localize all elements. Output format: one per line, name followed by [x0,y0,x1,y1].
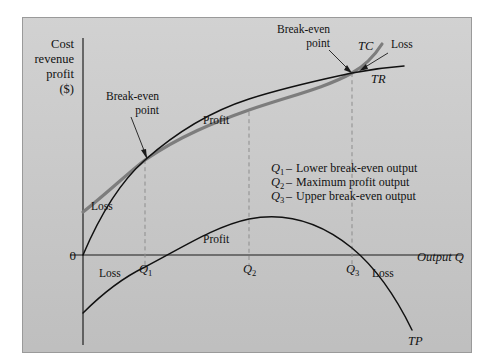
loss-label-left: Loss [91,200,113,212]
profit-label-upper: Profit [203,114,230,126]
svg-text:Q: Q [271,161,280,175]
tc-curve-label: TC [358,39,374,53]
q2-tick-label: Q 2 [243,262,256,278]
loss-label-right: Loss [391,38,413,50]
svg-text:–: – [285,175,293,189]
svg-text:3: 3 [355,268,359,278]
y-axis-label-line-4: ($) [59,82,74,96]
svg-text:2: 2 [280,181,284,191]
q3-tick-label: Q 3 [346,262,359,278]
svg-text:1: 1 [148,268,152,278]
breakeven-right-leader [329,50,352,73]
svg-text:3: 3 [280,195,284,205]
figure-stage: Cost revenue profit ($) 0 Output Q Q 1 Q… [0,0,491,364]
y-axis-label-line-3: profit [46,67,74,81]
x-axis-label: Output Q [417,250,464,264]
svg-text:point: point [135,104,159,117]
svg-text:–: – [285,161,293,175]
breakeven-left-leader [131,117,147,159]
origin-label: 0 [70,248,77,263]
profit-label-lower: Profit [203,233,230,245]
svg-text:Q: Q [243,262,252,276]
svg-text:Break-even: Break-even [277,23,330,35]
loss-label-axis-left: Loss [99,267,121,279]
economics-breakeven-chart: Cost revenue profit ($) 0 Output Q Q 1 Q… [0,0,491,364]
legend-item-q3: Q 3 – Upper break-even output [271,189,417,205]
svg-text:point: point [306,37,330,50]
breakeven-left-annotation: Break-even point [106,90,160,117]
svg-text:–: – [285,189,293,203]
svg-text:Q: Q [271,175,280,189]
svg-text:Maximum profit output: Maximum profit output [296,175,410,189]
tp-curve-label: TP [408,334,423,348]
y-axis-label-line-2: revenue [34,52,74,66]
svg-text:2: 2 [252,268,256,278]
svg-text:Break-even: Break-even [106,90,159,102]
svg-text:Upper break-even output: Upper break-even output [296,189,417,203]
svg-text:Q: Q [346,262,355,276]
loss-label-axis-right: Loss [372,267,394,279]
tr-curve-label: TR [371,72,386,86]
svg-text:1: 1 [280,167,284,177]
svg-text:Q: Q [271,189,280,203]
svg-text:Q: Q [139,262,148,276]
y-axis-label-line-1: Cost [51,37,74,51]
breakeven-right-annotation: Break-even point [277,23,331,50]
legend: Q 1 – Lower break-even output Q 2 – Maxi… [271,161,418,205]
svg-text:Lower break-even output: Lower break-even output [296,161,418,175]
